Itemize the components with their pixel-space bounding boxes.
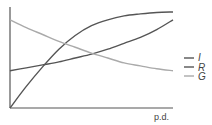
line-chart: I R G p.d. [0, 0, 212, 125]
series-r-line [10, 20, 173, 71]
series-i-line [10, 12, 173, 108]
series-g-line [10, 20, 173, 71]
x-axis-label: p.d. [154, 112, 169, 122]
legend: I R G [184, 52, 206, 82]
legend-label-g: G [198, 71, 206, 82]
